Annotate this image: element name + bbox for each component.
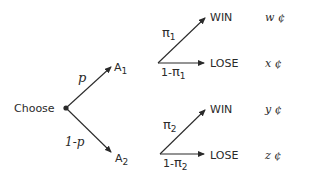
svg-text:1-π2: 1-π2 — [163, 155, 188, 172]
branch-a2-prob: 1-p — [65, 135, 85, 149]
a1-win-prob: π1 — [162, 25, 176, 42]
a1-lose-value: x ¢ — [265, 57, 282, 70]
svg-text:π1: π1 — [162, 25, 176, 42]
a1-win-value: w ¢ — [265, 11, 285, 24]
svg-text:1-π1: 1-π1 — [161, 64, 186, 81]
svg-text:π2: π2 — [163, 117, 177, 134]
a2-win-label: WIN — [210, 103, 232, 116]
a2-lose-value: z ¢ — [264, 149, 281, 162]
a2-win-value: y ¢ — [264, 103, 282, 116]
node-a2-label: A2 — [115, 152, 128, 167]
node-a1-label: A1 — [114, 61, 127, 76]
a2-win-prob: π2 — [163, 117, 177, 134]
root-label: Choose — [14, 102, 55, 115]
a2-lose-prob: 1-π2 — [163, 155, 188, 172]
a2-lose-label: LOSE — [210, 149, 238, 162]
decision-tree-diagram: Choose p A1 1-p A2 π1 1-π1 WIN LOSE w ¢ … — [0, 0, 310, 183]
branch-a1-prob: p — [78, 70, 87, 85]
svg-text:A1: A1 — [114, 61, 127, 76]
branch-a1-arrow — [66, 67, 111, 108]
a1-lose-label: LOSE — [210, 57, 238, 70]
a1-win-label: WIN — [210, 11, 232, 24]
a1-lose-prob: 1-π1 — [161, 64, 186, 81]
svg-text:A2: A2 — [115, 152, 128, 167]
